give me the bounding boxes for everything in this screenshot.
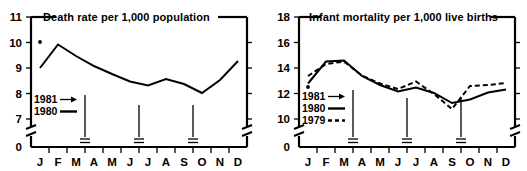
death-rate-svg: Death rate per 1,000 population 11 10 9 … (0, 0, 263, 171)
y-tick-label-10: 10 (277, 113, 290, 125)
y-tick-label-8: 8 (16, 88, 23, 100)
y-tick-label-14: 14 (277, 62, 290, 74)
x-tick-label-jun: J (127, 156, 133, 168)
x-tick-label-dec: D (502, 156, 510, 168)
x-tick-label-oct: O (198, 156, 207, 168)
y-tick-label-16: 16 (277, 37, 290, 49)
x-tick-label-mar: M (339, 156, 349, 168)
legend-arrow-head-1981 (339, 94, 345, 100)
x-tick-label-oct: O (466, 156, 475, 168)
x-tick-label-jan: J (37, 156, 43, 168)
x-tick-label-feb: F (54, 156, 61, 168)
chart-panel-death-rate: Death rate per 1,000 population 11 10 9 … (0, 0, 263, 171)
x-tick-label-may: M (107, 156, 117, 168)
legend-label-1981: 1981 (34, 93, 58, 105)
legend: 1981 1980 1979 (302, 90, 345, 126)
vital-statistics-figure: Death rate per 1,000 population 11 10 9 … (0, 0, 527, 171)
infant-mortality-svg: Infant mortality per 1,000 live births 1… (263, 0, 527, 171)
series-point-1981 (306, 85, 310, 89)
x-tick-label-jul: J (413, 156, 419, 168)
y-tick-label-7: 7 (16, 113, 22, 125)
x-tick-label-sep: S (448, 156, 456, 168)
x-tick-label-jan: J (305, 156, 311, 168)
legend-label-1980: 1980 (34, 105, 58, 117)
y-tick-label-9: 9 (16, 62, 22, 74)
legend-label-1980: 1980 (302, 102, 326, 114)
y-tick-label-18: 18 (277, 11, 290, 23)
legend: 1981 1980 (34, 93, 77, 117)
y-tick-label-0: 0 (16, 141, 22, 153)
chart-panel-infant-mortality: Infant mortality per 1,000 live births 1… (263, 0, 526, 171)
x-tick-label-aug: A (430, 156, 438, 168)
legend-label-1979: 1979 (302, 114, 326, 126)
x-tick-label-apr: A (90, 156, 98, 168)
panel-title: Infant mortality per 1,000 live births (309, 11, 498, 23)
x-tick-label-nov: N (216, 156, 224, 168)
y-axis-ticks (26, 17, 252, 119)
panel-title: Death rate per 1,000 population (43, 11, 210, 23)
x-tick-label-feb: F (322, 156, 329, 168)
x-tick-label-jun: J (395, 156, 401, 168)
legend-label-1981: 1981 (302, 90, 326, 102)
x-tick-label-aug: A (162, 156, 170, 168)
x-tick-label-jul: J (145, 156, 151, 168)
x-tick-label-may: M (375, 156, 385, 168)
y-tick-label-11: 11 (10, 11, 23, 23)
y-tick-label-10: 10 (9, 37, 22, 49)
quarter-dividers (348, 90, 466, 143)
x-tick-label-mar: M (71, 156, 81, 168)
x-tick-label-dec: D (234, 156, 242, 168)
series-point-1981 (38, 40, 42, 44)
y-tick-label-0: 0 (284, 141, 290, 153)
y-tick-label-12: 12 (277, 88, 290, 100)
x-tick-label-nov: N (484, 156, 492, 168)
legend-arrow-head-1981 (71, 97, 77, 103)
series-line-1980 (40, 45, 238, 94)
quarter-dividers (80, 95, 198, 143)
x-tick-label-sep: S (180, 156, 188, 168)
x-tick-label-apr: A (358, 156, 366, 168)
